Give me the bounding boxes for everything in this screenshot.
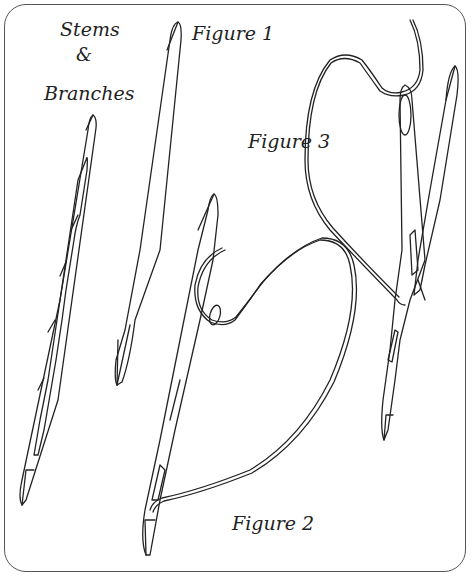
stem-stitch-column-icon xyxy=(20,115,96,505)
figure-2-needle-thread-icon xyxy=(143,194,357,555)
figure-3-needles-thread-icon xyxy=(305,20,458,440)
figure-1-needle-icon xyxy=(115,22,181,385)
title-stems: Stems xyxy=(60,20,120,39)
illustration-canvas: Stems & Branches Figure 1 Figure 2 Figur… xyxy=(0,0,474,578)
title-ampersand: & xyxy=(76,46,92,64)
figure-1-label: Figure 1 xyxy=(192,24,274,43)
title-branches: Branches xyxy=(44,84,134,103)
figure-2-label: Figure 2 xyxy=(232,514,314,533)
figure-3-label: Figure 3 xyxy=(248,132,330,151)
